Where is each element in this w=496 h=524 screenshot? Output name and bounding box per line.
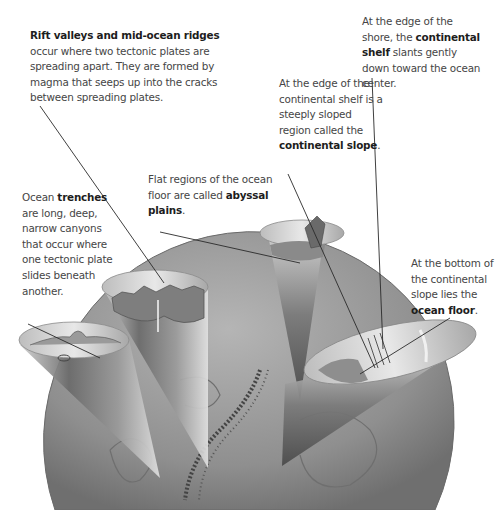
callout-rift-title: Rift valleys and mid-ocean ridges: [30, 29, 219, 41]
callout-slope-term: continental slope: [279, 139, 377, 151]
callout-trench-pre: Ocean: [22, 191, 54, 203]
callout-abyss-period: .: [182, 204, 185, 216]
callout-ocean-trenches: Ocean trenches are long, deep, narrow ca…: [22, 190, 114, 299]
callout-trench-term: trenches: [57, 191, 107, 203]
callout-floor-text: At the bottom of the continental slope l…: [411, 257, 493, 300]
callout-abyssal-plains: Flat regions of the ocean floor are call…: [148, 172, 278, 219]
callout-floor-term: ocean floor: [411, 304, 475, 316]
callout-floor-period: .: [475, 304, 478, 316]
callout-rift-text: occur where two tectonic plates are spre…: [30, 45, 217, 104]
callout-continental-shelf: At the edge of the shore, the continenta…: [362, 14, 482, 92]
callout-ocean-floor: At the bottom of the continental slope l…: [411, 256, 495, 318]
callout-rift-valleys: Rift valleys and mid-ocean ridges occur …: [30, 28, 220, 106]
callout-slope-period: .: [377, 139, 380, 151]
callout-trench-text: are long, deep, narrow canyons that occu…: [22, 207, 112, 297]
